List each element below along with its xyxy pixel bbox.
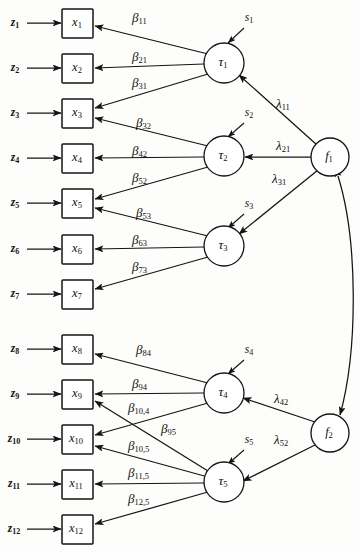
label-s2: s2 [245, 106, 253, 120]
arrow-s5-tau5 [228, 450, 244, 464]
lambda-labels: λ11 λ21 λ31 λ42 λ52 [271, 96, 290, 448]
arrow-tau2-x5 [95, 167, 208, 199]
arrow-s4-tau4 [228, 360, 244, 374]
label-beta-63: β63 [131, 232, 147, 248]
label-beta-73: β73 [131, 259, 147, 275]
arrow-s2-tau2 [228, 123, 244, 137]
lambda-path-arrows [239, 75, 318, 481]
label-beta-10-5: β10,5 [127, 438, 149, 454]
arrow-tau4-x9 [95, 393, 204, 394]
label-z12: z12 [7, 522, 20, 536]
label-z3: z3 [10, 106, 19, 120]
label-beta-11: β11 [131, 10, 147, 26]
arrow-s3-tau3 [228, 214, 244, 228]
label-beta-11-5: β11,5 [127, 465, 149, 481]
label-beta-95: β95 [160, 421, 176, 437]
label-z5: z5 [10, 196, 19, 210]
label-s1: s1 [245, 11, 253, 25]
arrow-tau5-x9 [95, 401, 208, 471]
arrow-tau5-x11 [95, 483, 204, 484]
label-z4: z4 [10, 151, 19, 165]
covariance-curve-f1-f2 [338, 176, 353, 415]
arrow-s1-tau1 [228, 28, 244, 43]
arrow-tau4-x8 [95, 354, 208, 383]
label-beta-10-4: β10,4 [127, 400, 150, 416]
label-lambda-42: λ42 [273, 391, 288, 407]
arrow-tau3-x5 [95, 208, 208, 236]
latent-tau-labels: τ1 τ2 τ3 τ4 τ5 [218, 54, 228, 489]
label-beta-94: β94 [131, 376, 148, 392]
label-z10: z10 [7, 432, 20, 446]
label-beta-52: β52 [131, 170, 147, 186]
label-s3: s3 [245, 197, 253, 211]
label-s4: s4 [245, 343, 253, 357]
arrow-tau1-x2 [95, 64, 204, 68]
label-beta-84: β84 [135, 342, 152, 358]
arrow-tau3-x6 [95, 247, 204, 249]
arrow-tau5-x12 [95, 492, 208, 524]
label-z9: z9 [10, 387, 19, 401]
arrow-tau2-x4 [95, 157, 204, 158]
indicator-boxes [62, 9, 93, 544]
label-beta-53: β53 [135, 205, 151, 221]
label-z1: z1 [10, 16, 19, 30]
error-to-indicator-arrows [27, 23, 61, 529]
label-beta-31: β31 [131, 75, 147, 91]
arrow-tau1-x3 [95, 74, 208, 108]
latent-factor-circles [311, 138, 349, 452]
arrow-tau1-x1 [95, 26, 208, 54]
latent-tau-circles [204, 43, 244, 502]
diagram-canvas: x1 x2 x3 x4 x5 x6 x7 x8 x9 x10 x11 x12 z… [0, 0, 360, 553]
label-lambda-11: λ11 [275, 96, 290, 112]
latent-factor-labels: f1 f2 [325, 149, 333, 440]
label-lambda-21: λ21 [275, 138, 290, 154]
beta-path-arrows [95, 26, 208, 524]
label-s5: s5 [245, 433, 253, 447]
sem-path-diagram: x1 x2 x3 x4 x5 x6 x7 x8 x9 x10 x11 x12 z… [0, 0, 360, 553]
arrow-tau4-x10 [95, 403, 208, 435]
label-z2: z2 [10, 61, 19, 75]
arrow-tau5-x10 [95, 446, 208, 477]
label-lambda-31: λ31 [271, 171, 286, 187]
label-beta-32: β32 [135, 115, 151, 131]
label-z11: z11 [7, 477, 20, 491]
label-z6: z6 [10, 242, 19, 256]
label-z7: z7 [10, 287, 19, 301]
beta-labels: β11 β21 β31 β32 β42 β52 β53 β63 β73 β84 … [127, 10, 176, 507]
label-beta-21: β21 [131, 49, 147, 65]
label-beta-12-5: β12,5 [127, 491, 149, 507]
arrow-tau2-x3 [95, 118, 208, 146]
label-lambda-52: λ52 [273, 432, 288, 448]
error-labels: z1 z2 z3 z4 z5 z6 z7 z8 z9 z10 z11 z12 [7, 16, 20, 536]
indicator-labels: x1 x2 x3 x4 x5 x6 x7 x8 x9 x10 x11 x12 [68, 15, 83, 536]
label-z8: z8 [10, 342, 19, 356]
arrow-tau3-x7 [95, 257, 208, 289]
label-beta-42: β42 [131, 143, 147, 159]
arrow-f2-tau5 [243, 445, 315, 481]
